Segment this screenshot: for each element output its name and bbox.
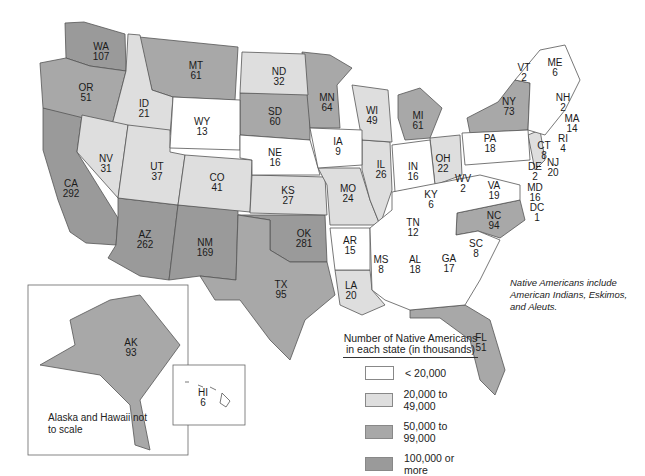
state-label-WA: WA107: [93, 42, 110, 62]
state-label-MA: MA14: [565, 114, 580, 134]
state-label-WY: WY13: [194, 117, 210, 137]
state-MN: [302, 52, 352, 128]
state-label-OR: OR51: [79, 83, 94, 103]
inset-note: Alaska and Hawaii not to scale: [48, 412, 148, 436]
state-label-IL: IL26: [375, 160, 386, 180]
state-label-NY: NY73: [502, 97, 516, 117]
state-label-WV: WV2: [455, 174, 471, 194]
state-NY: [467, 80, 530, 133]
state-label-MT: MT61: [189, 61, 203, 81]
state-label-MD: MD16: [527, 183, 543, 203]
state-label-VT: VT2: [518, 63, 531, 83]
state-label-DE: DE2: [528, 162, 542, 182]
state-label-SD: SD60: [268, 107, 282, 127]
state-label-CO: CO41: [210, 173, 225, 193]
state-label-NH: NH2: [556, 93, 570, 113]
legend-swatch: [365, 366, 394, 380]
state-label-AL: AL18: [409, 255, 421, 275]
legend-swatch: [365, 393, 393, 407]
state-label-PA: PA18: [484, 134, 497, 154]
legend: Number of Native Americans in each state…: [343, 333, 478, 476]
state-label-MN: MN64: [319, 93, 335, 113]
state-label-NM: NM169: [197, 238, 214, 258]
state-label-SC: SC8: [469, 239, 483, 259]
state-label-NE: NE16: [268, 148, 282, 168]
state-label-AK: AK93: [124, 338, 137, 358]
state-label-WI: WI49: [366, 106, 378, 126]
state-label-AZ: AZ262: [137, 230, 154, 250]
state-label-IN: IN16: [407, 162, 418, 182]
state-label-NC: NC94: [487, 211, 501, 231]
legend-swatch: [365, 457, 393, 471]
state-label-ID: ID21: [138, 99, 149, 119]
state-label-MS: MS8: [374, 255, 389, 275]
state-label-KS: KS27: [281, 186, 294, 206]
state-label-TN: TN12: [406, 218, 419, 238]
state-label-UT: UT37: [150, 162, 163, 182]
legend-item: 20,000 to 49,000: [365, 388, 478, 412]
legend-swatch: [365, 425, 393, 439]
legend-title: Number of Native Americans in each state…: [343, 333, 478, 358]
state-label-VA: VA19: [488, 181, 501, 201]
state-label-ME: ME6: [548, 58, 563, 78]
state-label-CA: CA292: [63, 179, 80, 199]
state-label-GA: GA17: [442, 254, 456, 274]
state-label-HI: HI6: [198, 388, 208, 408]
state-label-OK: OK281: [296, 229, 313, 249]
state-label-LA: LA20: [345, 281, 357, 301]
state-label-TX: TX95: [275, 280, 288, 300]
state-label-AR: AR15: [343, 236, 357, 256]
state-label-NJ: NJ20: [547, 158, 559, 178]
state-label-ND: ND32: [272, 67, 286, 87]
state-label-DC: DC1: [530, 203, 544, 223]
map-note: Native Americans include American Indian…: [510, 277, 640, 313]
legend-item: < 20,000: [365, 366, 478, 380]
state-label-OH: OH22: [436, 154, 451, 174]
legend-item: 50,000 to 99,000: [365, 420, 478, 444]
state-label-RI: RI4: [558, 134, 568, 154]
state-label-NV: NV31: [99, 154, 113, 174]
state-label-MO: MO24: [340, 184, 356, 204]
legend-item: 100,000 or more: [365, 452, 478, 476]
state-label-MI: MI61: [412, 111, 423, 131]
hawaii-inset: [173, 365, 245, 425]
state-label-IA: IA9: [333, 137, 342, 157]
state-label-KY: KY6: [424, 190, 437, 210]
